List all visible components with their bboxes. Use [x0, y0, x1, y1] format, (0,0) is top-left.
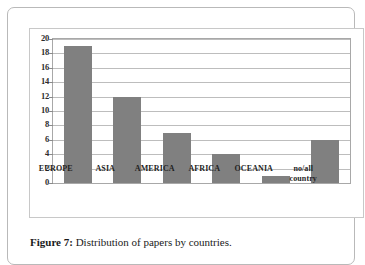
bar-slot — [103, 39, 153, 183]
bar-slot — [152, 39, 202, 183]
y-axis-tick-label: 18 — [41, 48, 49, 57]
y-axis-tick-label: 12 — [41, 91, 49, 100]
bar — [64, 46, 92, 183]
bar-slot — [251, 39, 301, 183]
x-axis-category-label: no/all country — [279, 164, 329, 184]
y-axis-tick-label: 14 — [41, 77, 49, 86]
bar-slot — [202, 39, 252, 183]
x-axis-category-label: ASIA — [81, 164, 131, 174]
x-axis-label-slot: no/all country — [279, 164, 329, 184]
plot-area — [52, 38, 351, 184]
x-axis-label-slot: AFRICA — [180, 164, 230, 184]
x-axis-label-slot: ASIA — [81, 164, 131, 184]
x-axis-category-label: AFRICA — [180, 164, 230, 174]
bar-series — [53, 39, 350, 183]
x-axis-category-labels: EUROPEASIAAMERICAAFRICAOCEANIAno/all cou… — [31, 164, 328, 184]
y-axis-tick-label: 10 — [41, 106, 49, 115]
x-axis-label-slot: AMERICA — [130, 164, 180, 184]
figure-caption: Figure 7: Distribution of papers by coun… — [30, 236, 350, 249]
chart-plot-wrapper: 20181614121086420 — [29, 31, 353, 217]
x-axis-category-label: OCEANIA — [229, 164, 279, 174]
figure-caption-label: Figure 7: — [30, 236, 73, 248]
bar-slot — [53, 39, 103, 183]
y-axis-tick-label: 20 — [41, 34, 49, 43]
x-axis-label-slot: EUROPE — [31, 164, 81, 184]
x-axis-category-label: EUROPE — [31, 164, 81, 174]
x-axis-category-label: AMERICA — [130, 164, 180, 174]
x-axis-label-slot: OCEANIA — [229, 164, 279, 184]
y-axis-tick-labels: 20181614121086420 — [29, 38, 49, 182]
figure-frame: 20181614121086420 EUROPEASIAAMERICAAFRIC… — [7, 7, 355, 265]
y-axis-tick-label: 16 — [41, 63, 49, 72]
figure-caption-text: Distribution of papers by countries. — [73, 236, 232, 248]
y-axis-tick-label: 6 — [45, 135, 49, 144]
bar-slot — [301, 39, 351, 183]
